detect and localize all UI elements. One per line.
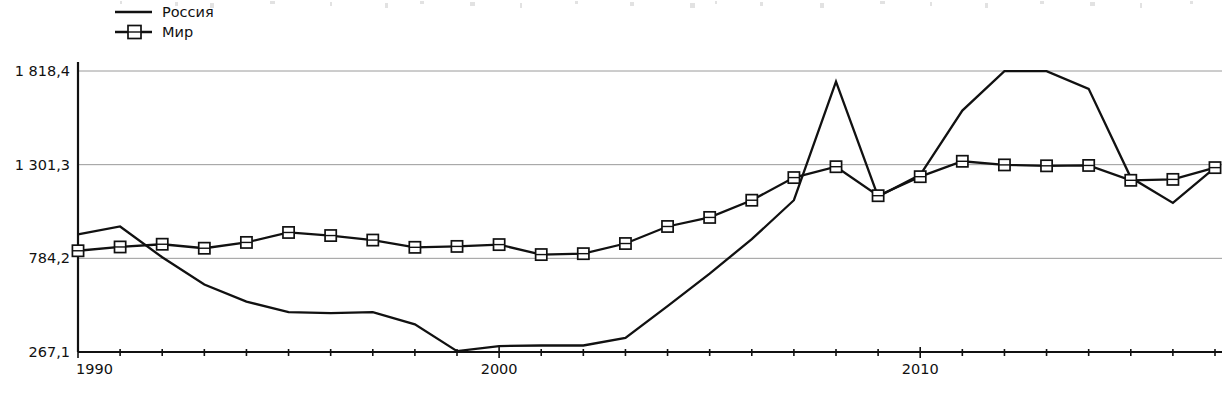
scan-artifact <box>880 1 885 4</box>
scan-artifact <box>575 1 578 4</box>
scan-artifact <box>760 2 763 6</box>
scan-artifact <box>520 3 522 8</box>
scan-artifact <box>1140 3 1142 8</box>
x-tick-label-1990: 1990 <box>76 361 113 377</box>
scan-artifact <box>820 3 824 8</box>
scan-artifact <box>270 1 275 4</box>
scan-artifact <box>1190 1 1193 4</box>
scan-artifact <box>330 2 332 6</box>
scan-artifact <box>630 2 634 6</box>
scan-artifact <box>1090 2 1095 6</box>
scan-artifact <box>690 3 695 8</box>
scan-artifact <box>715 1 717 4</box>
y-tick-label-0: 267,1 <box>28 344 70 360</box>
scan-artifact <box>420 1 424 4</box>
scan-artifact <box>470 2 475 6</box>
x-tick-label-2010: 2010 <box>902 361 939 377</box>
scan-artifact <box>930 2 932 6</box>
scan-artifact <box>1040 1 1044 4</box>
scan-artifact <box>120 1 122 4</box>
line-chart: Россия Мир 267,1784,21 301,31 818,4 1990… <box>0 0 1229 409</box>
x-tick-label-2000: 2000 <box>481 361 518 377</box>
y-tick-label-3: 1 818,4 <box>15 63 70 79</box>
chart-container: Россия Мир 267,1784,21 301,31 818,4 1990… <box>0 0 1229 409</box>
scan-artifact <box>985 3 988 8</box>
legend-label-world: Мир <box>162 24 193 40</box>
scan-artifact <box>385 3 388 8</box>
y-tick-label-1: 784,2 <box>28 250 70 266</box>
chart-background <box>0 0 1229 409</box>
legend-label-russia: Россия <box>162 4 214 20</box>
y-tick-label-2: 1 301,3 <box>15 157 70 173</box>
